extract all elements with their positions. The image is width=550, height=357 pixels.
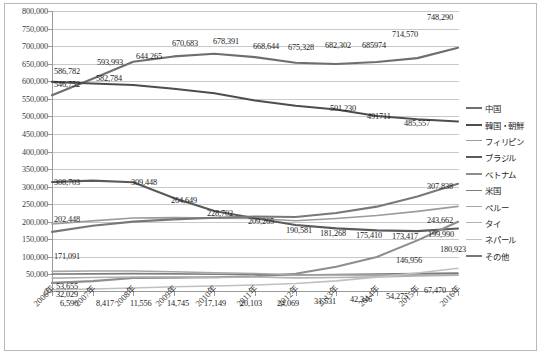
chart-screenshot: 800,000750,000700,000650,000600,000550,0… bbox=[0, 0, 550, 357]
data-value-label: 24,069 bbox=[277, 299, 299, 308]
legend-item-label: ネパール bbox=[485, 233, 516, 245]
legend-item[interactable]: 米国 bbox=[466, 182, 534, 198]
data-value-label: 190,581 bbox=[286, 226, 312, 235]
legend-item[interactable]: ベトナム bbox=[466, 166, 534, 182]
data-value-label: 685974 bbox=[362, 41, 386, 50]
y-axis-tick-label: 200,000 bbox=[0, 217, 48, 226]
data-value-label: 199,990 bbox=[428, 230, 454, 239]
data-value-label: 670,683 bbox=[172, 39, 198, 48]
legend-line-swatch-icon bbox=[466, 239, 482, 240]
y-axis-tick-label: 700,000 bbox=[0, 42, 48, 51]
y-axis-tick-label: 350,000 bbox=[0, 165, 48, 174]
data-value-label: 11,556 bbox=[130, 299, 152, 308]
data-value-label: 173,417 bbox=[392, 232, 418, 241]
legend-item-label: フィリピン bbox=[485, 135, 524, 147]
data-value-label: 42,346 bbox=[350, 295, 372, 304]
y-axis-tick-label: 500,000 bbox=[0, 112, 48, 121]
data-value-label: 308,703 bbox=[54, 178, 80, 187]
legend-item-label: その他 bbox=[485, 250, 508, 262]
data-value-label: 14,745 bbox=[167, 299, 189, 308]
legend-item-label: ブラジル bbox=[485, 151, 516, 163]
data-value-label: 181,268 bbox=[320, 229, 346, 238]
y-axis-tick-label: 750,000 bbox=[0, 24, 48, 33]
legend-line-swatch-icon bbox=[466, 190, 482, 191]
legend-item[interactable]: ブラジル bbox=[466, 149, 534, 165]
legend-line-swatch-icon bbox=[466, 173, 482, 175]
data-value-label: 491711 bbox=[367, 112, 391, 121]
legend-line-swatch-icon bbox=[466, 206, 482, 207]
data-value-label: 6,596 bbox=[60, 299, 78, 308]
legend-item-label: 米国 bbox=[485, 184, 501, 196]
data-value-label: 32,029 bbox=[56, 290, 78, 299]
y-axis-tick-label: 650,000 bbox=[0, 59, 48, 68]
data-value-label: 678,391 bbox=[213, 37, 239, 46]
y-axis-tick-label: 50,000 bbox=[0, 270, 48, 279]
legend-item[interactable]: タイ bbox=[466, 215, 534, 231]
series-line bbox=[52, 48, 458, 96]
legend-line-swatch-icon bbox=[466, 107, 482, 109]
data-value-label: 243,662 bbox=[427, 216, 453, 225]
data-value-label: 31,531 bbox=[314, 297, 336, 306]
y-axis: 800,000750,000700,000650,000600,000550,0… bbox=[0, 11, 48, 292]
data-value-label: 146,956 bbox=[396, 256, 422, 265]
data-value-label: 67,470 bbox=[424, 286, 446, 295]
data-value-label: 209,265 bbox=[248, 217, 274, 226]
data-value-label: 714,570 bbox=[392, 30, 418, 39]
y-axis-tick-label: 300,000 bbox=[0, 182, 48, 191]
data-value-label: 8,417 bbox=[96, 299, 114, 308]
data-value-label: 485,557 bbox=[404, 119, 430, 128]
series-line bbox=[52, 82, 458, 122]
legend-item[interactable]: ネパール bbox=[466, 231, 534, 247]
data-value-label: 175,410 bbox=[356, 231, 382, 240]
data-value-label: 682,302 bbox=[325, 41, 351, 50]
legend-item[interactable]: ペルー bbox=[466, 198, 534, 214]
data-value-label: 593,993 bbox=[97, 58, 123, 67]
series-layer bbox=[52, 11, 458, 292]
legend-line-swatch-icon bbox=[466, 156, 482, 158]
legend-item-label: 中国 bbox=[485, 102, 501, 114]
y-axis-tick-label: 600,000 bbox=[0, 77, 48, 86]
data-value-label: 644,265 bbox=[136, 52, 162, 61]
legend-item-label: ペルー bbox=[485, 201, 508, 213]
data-value-label: 202,448 bbox=[54, 215, 80, 224]
y-axis-tick-label: 400,000 bbox=[0, 147, 48, 156]
y-axis-tick-label: 150,000 bbox=[0, 235, 48, 244]
legend-item[interactable]: 韓国・朝鮮 bbox=[466, 116, 534, 132]
data-value-label: 748,290 bbox=[427, 13, 453, 22]
data-value-label: 54,275 bbox=[386, 292, 408, 301]
data-value-label: 586,782 bbox=[54, 67, 80, 76]
legend-line-swatch-icon bbox=[466, 124, 482, 126]
y-axis-tick-label: 450,000 bbox=[0, 129, 48, 138]
data-value-label: 180,923 bbox=[440, 245, 466, 254]
y-axis-tick-label: 100,000 bbox=[0, 252, 48, 261]
y-axis-tick-label: 250,000 bbox=[0, 200, 48, 209]
data-value-label: 228,702 bbox=[207, 209, 233, 218]
legend-item[interactable]: 中国 bbox=[466, 100, 534, 116]
chart-legend: 中国韓国・朝鮮フィリピンブラジルベトナム米国ペルータイネパールその他 bbox=[466, 100, 534, 264]
y-axis-tick-label: 550,000 bbox=[0, 94, 48, 103]
data-value-label: 171,091 bbox=[54, 252, 80, 261]
legend-item[interactable]: その他 bbox=[466, 248, 534, 264]
legend-line-swatch-icon bbox=[466, 222, 482, 223]
data-value-label: 546,752 bbox=[54, 80, 80, 89]
data-value-label: 20,103 bbox=[240, 299, 262, 308]
legend-item-label: 韓国・朝鮮 bbox=[485, 119, 524, 131]
y-axis-tick-label: 800,000 bbox=[0, 7, 48, 16]
legend-line-swatch-icon bbox=[466, 140, 482, 141]
legend-item-label: ベトナム bbox=[485, 168, 516, 180]
data-value-label: 264,649 bbox=[171, 196, 197, 205]
legend-item-label: タイ bbox=[485, 217, 501, 229]
data-value-label: 675,328 bbox=[288, 43, 314, 52]
data-value-label: 307,838 bbox=[427, 182, 453, 191]
data-value-label: 668,644 bbox=[253, 42, 279, 51]
data-value-label: 17,149 bbox=[204, 299, 226, 308]
legend-item[interactable]: フィリピン bbox=[466, 133, 534, 149]
data-value-label: 501,230 bbox=[330, 104, 356, 113]
data-value-label: 309,448 bbox=[131, 178, 157, 187]
data-value-label: 582,784 bbox=[96, 74, 122, 83]
legend-line-swatch-icon bbox=[466, 255, 482, 257]
